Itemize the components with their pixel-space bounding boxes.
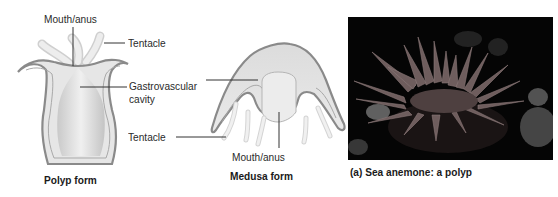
cavity-label-line1: Gastrovascular	[129, 80, 197, 93]
medusa-mouth-label: Mouth/anus	[232, 151, 285, 164]
cavity-label-line2: cavity	[129, 93, 155, 106]
sea-anemone-photo	[348, 17, 553, 160]
polyp-caption: Polyp form	[44, 174, 97, 186]
polyp-tentacle-label: Tentacle	[128, 37, 166, 50]
medusa-tentacle-label: Tentacle	[128, 131, 166, 144]
photo-caption: (a) Sea anemone: a polyp	[350, 166, 472, 178]
polyp-tentacles	[42, 36, 100, 64]
anemone-illustration	[348, 17, 553, 160]
polyp-mouth-label: Mouth/anus	[44, 13, 97, 26]
medusa-caption: Medusa form	[230, 170, 293, 182]
